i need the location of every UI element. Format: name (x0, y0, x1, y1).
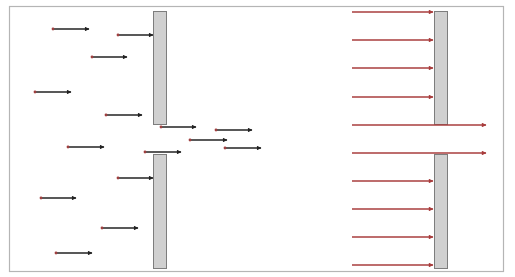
particle-dot (189, 139, 192, 142)
particle-arrow (144, 151, 181, 154)
particle-dot (55, 252, 58, 255)
particle-arrow (117, 34, 153, 37)
particle-dot (215, 129, 218, 132)
particle-arrow (215, 129, 252, 132)
particle-arrow (34, 91, 71, 94)
particle-arrow (189, 139, 227, 142)
particle-dot (91, 56, 94, 59)
particle-dot (52, 28, 55, 31)
particle-dot (117, 177, 120, 180)
particle-arrow (67, 146, 104, 149)
particle-dot (224, 147, 227, 150)
particle-arrow (101, 227, 138, 230)
particle-dot (160, 126, 163, 129)
particle-dot (67, 146, 70, 149)
particle-dot (34, 91, 37, 94)
particle-arrow (160, 126, 196, 129)
particle-dot (101, 227, 104, 230)
particle-panel (34, 12, 261, 269)
particle-arrow (224, 147, 261, 150)
particle-arrow (52, 28, 89, 31)
particle-dot (105, 114, 108, 117)
slit-barrier (154, 12, 167, 125)
particle-arrow (117, 177, 153, 180)
particle-arrow (55, 252, 92, 255)
particle-dot (40, 197, 43, 200)
slit-barrier (435, 12, 448, 125)
diagram-frame (10, 7, 504, 272)
particle-dot (144, 151, 147, 154)
wave-panel (352, 12, 486, 269)
particle-arrow (40, 197, 76, 200)
slit-barrier (435, 155, 448, 269)
particle-arrow (105, 114, 142, 117)
particle-arrow (91, 56, 127, 59)
particle-dot (117, 34, 120, 37)
diagram-canvas (0, 0, 515, 277)
slit-barrier (154, 155, 167, 269)
